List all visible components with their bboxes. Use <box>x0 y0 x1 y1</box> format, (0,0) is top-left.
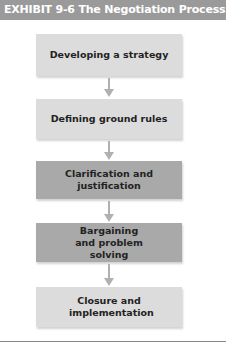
exhibit-title: EXHIBIT 9-6 The Negotiation Process <box>0 0 226 20</box>
arrow-down-icon <box>107 78 111 97</box>
step-bargaining-problem-solving: Bargaining and problem solving <box>36 223 182 262</box>
arrow-down-icon <box>107 264 111 286</box>
arrow-down-icon <box>107 201 111 222</box>
arrow-down-icon <box>107 141 111 160</box>
step-closure-implementation: Closure and implementation <box>36 287 182 327</box>
step-label: Bargaining and problem solving <box>69 225 149 261</box>
step-label: Clarification and justification <box>64 168 154 192</box>
step-label: Developing a strategy <box>50 49 169 61</box>
step-label: Closure and implementation <box>69 295 149 319</box>
step-clarification-justification: Clarification and justification <box>36 161 182 199</box>
step-label: Defining ground rules <box>51 113 168 125</box>
step-developing-strategy: Developing a strategy <box>36 34 182 76</box>
step-defining-ground-rules: Defining ground rules <box>36 99 182 139</box>
bottom-divider <box>0 341 226 342</box>
